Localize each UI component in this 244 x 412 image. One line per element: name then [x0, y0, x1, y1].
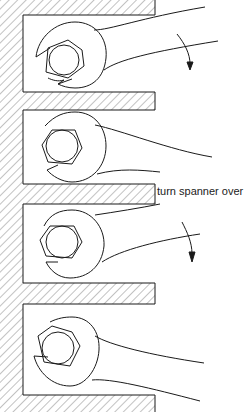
shelf-4 [23, 283, 155, 304]
nut-1 [46, 40, 84, 78]
shelf-1 [23, 0, 155, 15]
wrench-4 [34, 317, 204, 401]
bolt-2 [46, 130, 78, 162]
wrench-1 [36, 7, 218, 88]
wrench-2 [42, 112, 212, 182]
turn-spanner-over-label: turn spanner over [157, 184, 243, 198]
bolt-3 [46, 226, 78, 258]
spanner-diagram [0, 0, 244, 412]
bolt-1 [49, 45, 79, 75]
shelf-2 [23, 92, 155, 110]
nut-2 [42, 130, 82, 164]
rotation-arrow-3 [182, 222, 195, 262]
wrench-3 [40, 204, 200, 278]
bolt-4 [42, 332, 74, 364]
rotation-arrow-1 [177, 34, 193, 70]
shelf-5 [23, 395, 155, 412]
shelf-3 [23, 184, 155, 204]
